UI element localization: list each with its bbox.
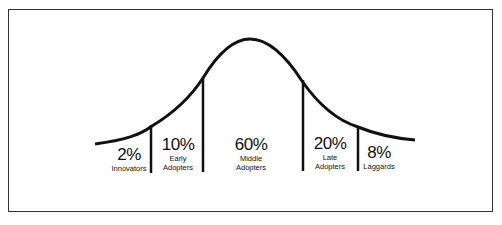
segment-percent: 8% — [362, 144, 396, 161]
segment-label-line1: Middle — [228, 154, 274, 163]
segment-label: Innovators — [108, 164, 150, 173]
segment-late-adopters: 20% Late Adopters — [307, 135, 353, 171]
bell-curve-diagram — [0, 0, 502, 225]
bell-curve — [95, 39, 415, 144]
segment-label-line1: Early — [156, 154, 200, 163]
segment-early-adopters: 10% Early Adopters — [156, 136, 200, 172]
segment-middle-adopters: 60% Middle Adopters — [228, 136, 274, 172]
segment-label: Laggards — [362, 162, 396, 171]
segment-innovators: 2% Innovators — [108, 146, 150, 173]
segment-percent: 2% — [108, 146, 150, 163]
segment-label-line1: Late — [307, 153, 353, 162]
segment-percent: 10% — [156, 136, 200, 153]
segment-percent: 20% — [307, 135, 353, 152]
segment-label-line2: Adopters — [228, 163, 274, 172]
segment-label-line2: Adopters — [156, 163, 200, 172]
segment-percent: 60% — [228, 136, 274, 153]
segment-laggards: 8% Laggards — [362, 144, 396, 171]
segment-label-line2: Adopters — [307, 162, 353, 171]
